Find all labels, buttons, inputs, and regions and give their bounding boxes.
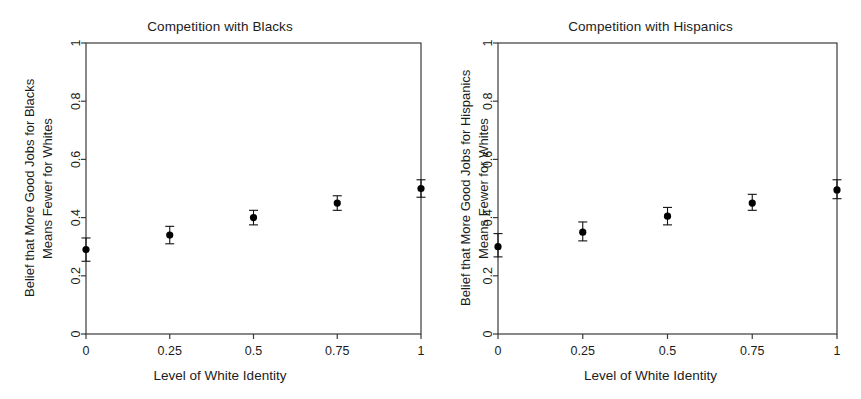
data-point-group <box>663 207 672 224</box>
x-tick-label: 1 <box>834 344 841 358</box>
x-tick-label: 0.5 <box>245 344 262 358</box>
data-point-group <box>833 180 842 199</box>
y-tick-label: 0.4 <box>69 209 83 226</box>
plot-box <box>498 43 837 334</box>
data-point-group <box>578 222 587 241</box>
y-tick-label: 0.8 <box>481 92 495 109</box>
x-tick-label: 0.75 <box>325 344 349 358</box>
y-tick-label: 0.6 <box>481 151 495 168</box>
plot-box <box>86 43 421 334</box>
data-point-group <box>494 234 503 257</box>
panel-competition-with-blacks: Competition with Blacks Belief that More… <box>0 0 440 399</box>
y-tick-label: 0.4 <box>481 209 495 226</box>
y-tick-label: 0.8 <box>69 92 83 109</box>
x-tick-label: 0.75 <box>740 344 764 358</box>
data-point-group <box>82 238 91 261</box>
data-point-group <box>748 194 757 210</box>
x-tick-label: 0.25 <box>158 344 182 358</box>
data-point-marker <box>334 199 341 206</box>
x-tick-label: 0.25 <box>571 344 595 358</box>
y-tick-label: 0 <box>481 330 495 337</box>
y-tick-label: 1 <box>481 39 495 46</box>
x-tick-label: 0 <box>495 344 502 358</box>
panel-competition-with-hispanics: Competition with Hispanics Belief that M… <box>440 0 861 399</box>
data-point-group <box>165 226 174 243</box>
data-point-marker <box>579 229 586 236</box>
plot-area-hispanics: 00.20.40.60.8100.250.50.751 <box>440 0 861 399</box>
x-tick-label: 0.5 <box>659 344 676 358</box>
data-point-marker <box>166 231 173 238</box>
data-point-group <box>249 210 258 225</box>
figure-panel-pair: Competition with Blacks Belief that More… <box>0 0 861 399</box>
y-tick-label: 0.2 <box>481 267 495 284</box>
x-tick-label: 0 <box>83 344 90 358</box>
data-point-marker <box>250 214 257 221</box>
y-tick-label: 1 <box>69 39 83 46</box>
data-point-group <box>417 180 426 197</box>
y-tick-label: 0 <box>69 330 83 337</box>
data-point-marker <box>82 246 89 253</box>
data-point-marker <box>749 199 756 206</box>
data-point-marker <box>417 185 424 192</box>
x-tick-label: 1 <box>418 344 425 358</box>
x-axis-title-hispanics: Level of White Identity <box>440 368 861 383</box>
data-point-marker <box>494 243 501 250</box>
data-point-marker <box>833 186 840 193</box>
y-tick-label: 0.6 <box>69 151 83 168</box>
plot-area-blacks: 00.20.40.60.8100.250.50.751 <box>0 0 440 399</box>
x-axis-title-blacks: Level of White Identity <box>0 368 440 383</box>
y-tick-label: 0.2 <box>69 267 83 284</box>
data-point-group <box>333 196 342 211</box>
data-point-marker <box>664 213 671 220</box>
